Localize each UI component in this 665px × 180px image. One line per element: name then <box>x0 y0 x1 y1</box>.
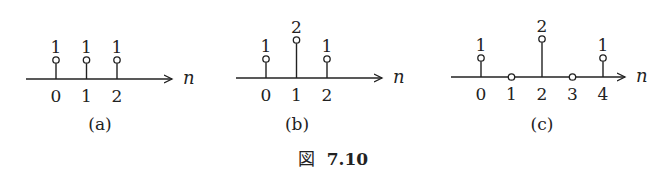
stem-marker <box>478 55 484 61</box>
figure-caption-number: 7.10 <box>327 149 369 169</box>
x-axis-label: n <box>183 67 195 88</box>
tick-label: 1 <box>506 84 517 104</box>
stem-marker <box>569 74 575 80</box>
value-label: 1 <box>81 37 92 57</box>
x-axis-label: n <box>393 66 405 87</box>
value-label: 2 <box>537 16 548 36</box>
stem-marker <box>508 74 514 80</box>
value-label: 1 <box>51 37 62 57</box>
stem-marker <box>263 56 269 62</box>
subfigure-caption: (b) <box>285 114 309 134</box>
stem-plot-c: n10122314(c) <box>451 16 648 134</box>
stem-marker <box>324 56 330 62</box>
figure-caption-prefix: 図 <box>298 149 315 169</box>
value-label: 1 <box>261 36 272 56</box>
subfigure-caption: (a) <box>88 114 111 134</box>
stem-marker <box>53 57 59 63</box>
tick-label: 2 <box>112 86 123 106</box>
stem-plot-a: n101112(a) <box>26 37 195 134</box>
tick-label: 0 <box>261 85 272 105</box>
stem-marker <box>600 55 606 61</box>
value-label: 1 <box>112 37 123 57</box>
value-label: 1 <box>598 35 609 55</box>
figure-caption: 図 7.10 <box>298 149 368 169</box>
value-label: 1 <box>476 35 487 55</box>
tick-label: 1 <box>291 85 302 105</box>
value-label: 1 <box>322 36 333 56</box>
figure-canvas: n101112(a)n102112(b)n10122314(c) 図 7.10 <box>0 0 665 180</box>
value-label: 2 <box>291 17 302 37</box>
stem-marker <box>83 57 89 63</box>
stem-plot-b: n102112(b) <box>236 17 405 134</box>
x-axis-label: n <box>636 65 648 86</box>
tick-label: 3 <box>567 84 578 104</box>
tick-label: 0 <box>51 86 62 106</box>
stem-marker <box>114 57 120 63</box>
tick-label: 4 <box>598 84 609 104</box>
tick-label: 0 <box>476 84 487 104</box>
subfigure-caption: (c) <box>531 114 554 134</box>
stem-marker <box>293 37 299 43</box>
stem-marker <box>539 36 545 42</box>
tick-label: 1 <box>81 86 92 106</box>
tick-label: 2 <box>322 85 333 105</box>
tick-label: 2 <box>537 84 548 104</box>
